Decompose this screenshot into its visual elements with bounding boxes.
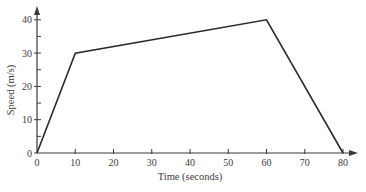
x-tick-label: 60	[262, 157, 272, 168]
speed-time-chart: 01020304050607080010203040 Time (seconds…	[0, 0, 366, 192]
y-tick-label: 20	[22, 81, 32, 92]
y-axis-label: Speed (m/s)	[5, 64, 17, 115]
y-tick-label: 0	[27, 148, 32, 159]
x-axis-label: Time (seconds)	[158, 171, 223, 183]
x-tick-label: 30	[147, 157, 157, 168]
x-tick-label: 50	[223, 157, 233, 168]
y-axis-arrow-icon	[34, 6, 40, 15]
x-tick-label: 10	[70, 157, 80, 168]
x-tick-label: 0	[35, 157, 40, 168]
x-axis-arrow-icon	[349, 150, 358, 156]
x-tick-label: 80	[338, 157, 348, 168]
x-tick-label: 70	[300, 157, 310, 168]
speed-line	[37, 20, 343, 153]
x-tick-label: 40	[185, 157, 195, 168]
y-tick-label: 10	[22, 114, 32, 125]
x-tick-label: 20	[109, 157, 119, 168]
data-series	[37, 20, 343, 153]
y-tick-label: 30	[22, 48, 32, 59]
ticks: 01020304050607080010203040	[22, 14, 348, 168]
y-tick-label: 40	[22, 14, 32, 25]
axes	[34, 6, 358, 156]
